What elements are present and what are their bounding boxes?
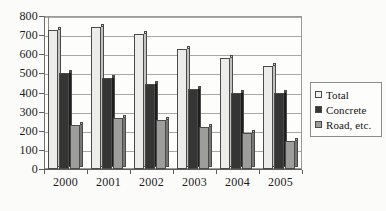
y-axis-tick-label: 300 [0,106,38,118]
bar-total-2004 [220,58,230,169]
bar-front-face [48,30,58,169]
bar-road-2001 [113,118,123,169]
bar-total-2003 [177,49,187,169]
bar-concrete-2002 [145,84,155,169]
bar-side-face [80,123,83,167]
legend-swatch-total-icon [315,91,322,98]
bar-concrete-2004 [231,93,241,169]
bar-top-cap [198,86,201,89]
bar-front-face [274,93,284,170]
x-axis-tick-label-2003: 2003 [173,176,217,189]
bar-group-2005 [259,16,302,169]
legend-label-road: Road, etc. [326,119,371,131]
bar-top-cap [252,130,255,133]
bar-front-face [177,49,187,169]
bar-front-face [134,34,144,169]
x-axis-tick-label-2002: 2002 [130,176,174,189]
bar-road-2003 [199,127,209,169]
bar-road-2004 [242,133,252,169]
bar-front-face [263,66,273,169]
bar-chart-figure: 0100200300400500600700800 20002001200220… [0,0,386,211]
legend-swatch-road-icon [315,121,322,128]
bar-top-cap [209,124,212,127]
bar-front-face [91,27,101,169]
legend-label-concrete: Concrete [326,104,367,116]
x-axis-tick [302,170,303,174]
bar-total-2002 [134,34,144,169]
bar-road-2002 [156,120,166,169]
legend-swatch-concrete-icon [315,106,322,113]
bar-top-cap [80,122,83,125]
bar-group-2001 [87,16,130,169]
legend-item-total: Total [315,87,378,102]
bar-group-2002 [130,16,173,169]
y-axis-tick-label: 700 [0,29,38,41]
y-axis-tick-label: 100 [0,144,38,156]
bar-side-face [252,131,255,167]
bar-concrete-2003 [188,89,198,169]
x-axis-tick-label-2001: 2001 [87,176,131,189]
bar-top-cap [230,55,233,58]
x-axis-tick [259,170,260,174]
bar-total-2005 [263,66,273,169]
bar-group-2000 [44,16,87,169]
legend-label-total: Total [326,89,349,101]
x-axis-tick [173,170,174,174]
bar-total-2000 [48,30,58,169]
y-axis-tick-label: 800 [0,10,38,22]
bar-concrete-2000 [59,73,69,169]
legend-item-concrete: Concrete [315,102,378,117]
bar-front-face [102,78,112,169]
bar-front-face [156,120,166,169]
bar-top-cap [123,115,126,118]
x-axis-tick [130,170,131,174]
x-axis-tick [44,170,45,174]
bar-front-face [199,127,209,169]
bar-front-face [188,89,198,169]
y-axis-tick-label: 600 [0,48,38,60]
bar-front-face [231,93,241,169]
x-axis-tick [87,170,88,174]
bar-top-cap [187,46,190,49]
bar-side-face [209,125,212,167]
x-axis-tick-label-2005: 2005 [259,176,303,189]
bar-top-cap [295,138,298,141]
bar-side-face [123,116,126,167]
bar-concrete-2001 [102,78,112,169]
bar-total-2001 [91,27,101,169]
y-axis-tick-label: 500 [0,67,38,79]
bar-side-face [166,118,169,167]
x-axis-tick [216,170,217,174]
x-axis [44,169,302,170]
bar-top-cap [69,70,72,73]
bar-side-face [295,139,298,167]
bars-layer [44,16,302,169]
bar-top-cap [144,31,147,34]
bar-front-face [285,141,295,169]
y-axis-tick-label: 0 [0,163,38,175]
y-axis-tick-label: 400 [0,87,38,99]
bar-front-face [242,133,252,169]
x-axis-tick-label-2000: 2000 [44,176,88,189]
bar-group-2004 [216,16,259,169]
bar-top-cap [284,90,287,93]
bar-top-cap [112,75,115,78]
bar-group-2003 [173,16,216,169]
bar-top-cap [166,117,169,120]
bar-front-face [113,118,123,169]
chart-legend: Total Concrete Road, etc. [310,82,382,137]
bar-road-2000 [70,125,80,169]
bar-top-cap [58,27,61,30]
bar-front-face [145,84,155,169]
bar-top-cap [101,24,104,27]
legend-item-road: Road, etc. [315,117,378,132]
bar-top-cap [155,81,158,84]
bar-concrete-2005 [274,93,284,170]
y-axis-tick-label: 200 [0,125,38,137]
bar-top-cap [273,63,276,66]
bar-top-cap [241,90,244,93]
bar-road-2005 [285,141,295,169]
bar-front-face [220,58,230,169]
x-axis-tick-label-2004: 2004 [216,176,260,189]
bar-front-face [70,125,80,169]
